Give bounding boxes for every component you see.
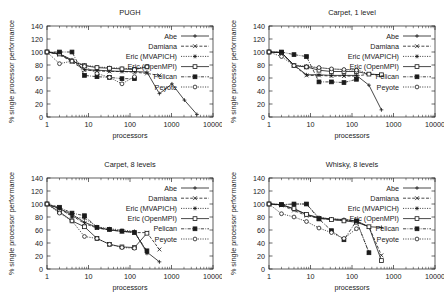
data-point-open-circle: [330, 231, 334, 235]
legend-marker-open-circle: [193, 85, 197, 89]
legend-label: Eric (OpenMPI): [349, 214, 399, 223]
data-point-plus: [330, 74, 334, 78]
data-point-filled-square: [367, 251, 371, 255]
chart-panel-1: Carpet, 1 level0204060801001201401101001…: [222, 0, 444, 152]
figure-grid: PUGH020406080100120140110100100010000pro…: [0, 0, 444, 304]
x-tick-label: 1: [267, 272, 271, 281]
legend-marker-star: [193, 207, 197, 211]
legend-label: Pelican: [375, 72, 399, 81]
y-tick-label: 20: [257, 252, 265, 261]
data-point-open-circle: [280, 55, 284, 59]
y-tick-label: 80: [257, 61, 265, 70]
y-tick-label: 100: [31, 48, 43, 57]
data-point-open-square: [380, 259, 384, 263]
data-point-open-circle: [58, 211, 62, 215]
data-point-filled-square: [305, 202, 309, 206]
data-point-plus: [342, 74, 346, 78]
data-point-open-square: [83, 225, 87, 229]
chart-panel-0: PUGH020406080100120140110100100010000pro…: [0, 0, 222, 152]
legend-label: Pelican: [153, 224, 177, 233]
chart-title: Carpet, 8 levels: [104, 160, 156, 169]
data-point-filled-square: [108, 227, 112, 231]
x-tick-label: 10: [307, 120, 315, 129]
chart-panel-3: Whisky, 8 levels020406080100120140110100…: [222, 152, 444, 304]
y-tick-label: 0: [261, 265, 265, 274]
x-tick-label: 1: [267, 120, 271, 129]
data-point-open-circle: [305, 65, 309, 69]
y-tick-label: 60: [35, 226, 43, 235]
x-tick-label: 1000: [164, 272, 180, 281]
data-point-filled-square: [70, 50, 74, 54]
data-point-open-square: [342, 219, 346, 223]
x-tick-label: 10000: [425, 120, 444, 129]
y-tick-label: 120: [253, 187, 265, 196]
x-axis-label: processors: [112, 131, 148, 140]
data-point-open-square: [120, 67, 124, 71]
legend-marker-star: [193, 55, 197, 59]
data-point-open-circle: [133, 246, 137, 250]
y-axis-label: % single processor performance: [229, 172, 238, 275]
legend-marker-open-circle: [415, 85, 419, 89]
data-point-open-circle: [292, 64, 296, 68]
y-tick-label: 20: [35, 252, 43, 261]
y-tick-label: 60: [35, 74, 43, 83]
data-point-filled-square: [280, 203, 284, 207]
data-point-open-circle: [120, 246, 124, 250]
legend-label: Abe: [164, 32, 177, 41]
data-point-open-square: [108, 66, 112, 70]
y-tick-label: 100: [253, 200, 265, 209]
chart-panel-2: Carpet, 8 levels020406080100120140110100…: [0, 152, 222, 304]
x-tick-label: 1000: [164, 120, 180, 129]
x-tick-label: 1000: [386, 120, 402, 129]
legend-marker-open-square: [415, 65, 419, 69]
data-point-cross: [158, 248, 162, 252]
legend-marker-filled-square: [193, 75, 197, 79]
x-tick-label: 10: [307, 272, 315, 281]
legend-marker-open-square: [415, 217, 419, 221]
legend-marker-open-circle: [193, 237, 197, 241]
data-point-open-circle: [120, 82, 124, 86]
y-tick-label: 40: [35, 239, 43, 248]
x-tick-label: 1000: [386, 272, 402, 281]
y-tick-label: 80: [257, 213, 265, 222]
data-point-filled-square: [317, 217, 321, 221]
legend-marker-plus: [193, 186, 197, 190]
legend-marker-open-square: [193, 65, 197, 69]
data-point-open-square: [330, 218, 334, 222]
legend-label: Abe: [386, 32, 399, 41]
legend-label: Eric (OpenMPI): [127, 214, 177, 223]
x-tick-label: 10: [85, 272, 93, 281]
x-tick-label: 100: [124, 272, 136, 281]
data-point-filled-square: [355, 77, 359, 81]
data-point-open-circle: [133, 75, 137, 79]
legend-label: Damiana: [370, 42, 399, 51]
data-point-open-circle: [108, 242, 112, 246]
data-point-open-square: [367, 72, 371, 76]
data-point-filled-square: [58, 50, 62, 54]
data-point-filled-square: [83, 74, 87, 78]
legend-label: Peyote: [377, 83, 399, 92]
chart-title: PUGH: [119, 8, 140, 17]
chart-svg: Carpet, 8 levels020406080100120140110100…: [0, 152, 222, 304]
data-point-open-circle: [317, 66, 321, 70]
legend-marker-plus: [415, 186, 419, 190]
y-tick-label: 0: [261, 113, 265, 122]
x-tick-label: 10000: [203, 120, 222, 129]
data-point-open-square: [305, 213, 309, 217]
data-point-open-circle: [83, 235, 87, 239]
y-tick-label: 120: [31, 35, 43, 44]
data-point-open-circle: [70, 219, 74, 223]
legend-label: Eric (MVAPICH): [126, 52, 177, 61]
data-point-open-circle: [45, 202, 49, 206]
data-point-filled-square: [145, 249, 149, 253]
y-tick-label: 20: [257, 100, 265, 109]
data-point-filled-square: [280, 50, 284, 54]
x-tick-label: 100: [124, 120, 136, 129]
legend-label: Damiana: [148, 42, 177, 51]
data-point-open-circle: [108, 75, 112, 79]
legend-marker-star: [415, 207, 419, 211]
data-point-open-circle: [355, 227, 359, 231]
chart-title: Carpet, 1 level: [328, 8, 376, 17]
legend-label: Abe: [164, 184, 177, 193]
legend-label: Pelican: [153, 72, 177, 81]
